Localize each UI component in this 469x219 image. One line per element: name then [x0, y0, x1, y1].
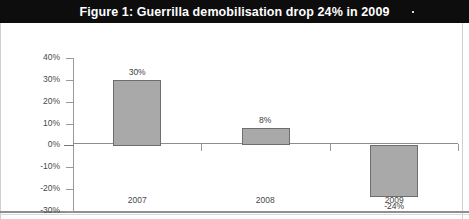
bar-2007: [113, 80, 161, 146]
y-axis-tick-label: 0%: [14, 140, 60, 149]
y-axis-tick-label: -20%: [14, 184, 60, 193]
y-axis-tick-label: 30%: [14, 75, 60, 84]
page-title: Figure 1: Guerrilla demobilisation drop …: [79, 5, 389, 19]
y-axis-tick: [66, 80, 74, 81]
bar-value-label: 30%: [73, 67, 201, 77]
y-axis-tick: [66, 102, 74, 103]
y-axis-tick-label: 20%: [14, 97, 60, 106]
x-axis-category-label: 2008: [201, 195, 329, 205]
figure-container: Figure 1: Guerrilla demobilisation drop …: [0, 0, 469, 219]
y-axis-tick: [64, 145, 74, 146]
y-axis-tick: [66, 211, 74, 212]
chart-plot-area: 40%30%20%10%0%-10%-20%-30% 30%20078%2008…: [0, 23, 469, 211]
y-axis-tick: [66, 58, 74, 59]
x-axis-category-label: 2009: [330, 195, 458, 205]
x-axis-tick: [458, 144, 459, 151]
bar-2008: [242, 128, 290, 145]
y-axis-tick-label: -10%: [14, 162, 60, 171]
x-axis-category-label: 2007: [73, 195, 201, 205]
bar-value-label: 8%: [201, 115, 329, 125]
y-axis-tick-label: -30%: [14, 206, 60, 215]
y-axis-tick: [66, 124, 74, 125]
bar-2009: [370, 145, 418, 197]
figure-title-band: Figure 1: Guerrilla demobilisation drop …: [0, 0, 469, 23]
x-axis-tick: [201, 144, 202, 151]
frame-bottom-border-secondary: [0, 214, 469, 215]
y-axis-tick-label: 10%: [14, 119, 60, 128]
y-axis-tick: [66, 189, 74, 190]
y-axis-tick-label: 40%: [14, 53, 60, 62]
y-axis-tick: [66, 167, 74, 168]
title-artifact-dot: [412, 11, 414, 13]
x-axis-tick: [330, 144, 331, 151]
